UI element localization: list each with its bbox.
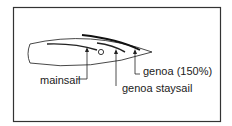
genoa-staysail-label: genoa staysail — [122, 83, 192, 94]
diagram-graphic — [0, 0, 232, 126]
mainsail-curve — [47, 44, 97, 50]
hull-outline — [28, 39, 152, 66]
staysail-arrowhead — [114, 49, 118, 54]
mast-circle — [98, 49, 103, 54]
genoa-arrowhead — [133, 49, 137, 54]
genoa-leader — [135, 51, 140, 74]
genoa-label: genoa (150%) — [143, 66, 212, 77]
sail-diagram: mainsail genoa staysail genoa (150%) — [0, 0, 232, 126]
mainsail-label: mainsail — [40, 75, 80, 86]
